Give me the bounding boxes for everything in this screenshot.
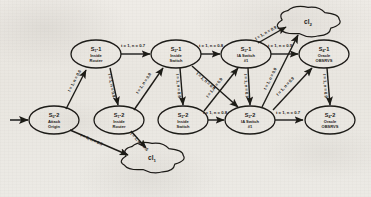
- node-name-line2: Origin: [48, 124, 60, 129]
- cloud-label-subscript: 1: [153, 158, 156, 163]
- node-name-line2: Router: [90, 58, 103, 63]
- edge-label: t = 1, n = 0.8: [203, 110, 228, 115]
- node-name-line2: Switch: [177, 124, 190, 129]
- edge-label: t = 1, n = 0.7: [276, 110, 301, 115]
- edge-label: t = 1, n = 0.9: [268, 43, 293, 48]
- node-state-number: -2: [183, 112, 188, 118]
- attack-graph-svg: t = 1, n = 0.6t = 1, n = 0.5t = 1, n = 0…: [0, 0, 371, 197]
- edge-label: t = 1, n = 0.8: [135, 71, 153, 94]
- attack-graph-canvas: t = 1, n = 0.6t = 1, n = 0.5t = 1, n = 0…: [0, 0, 371, 197]
- node-name-line2: Router: [113, 124, 126, 129]
- node-state-number: -2: [250, 112, 255, 118]
- node-state-number: -1: [324, 46, 329, 52]
- edge-label: t = 1, n = 0.6: [129, 131, 150, 152]
- node-state-number: -2: [119, 112, 124, 118]
- edge-label: t = 1, n = 0.8: [199, 43, 224, 48]
- edge-label: t = 1, n = 0.7: [121, 43, 146, 48]
- node-name-line2: Switch: [170, 58, 183, 63]
- node-name-line2: #1: [248, 124, 253, 129]
- cloud-label-subscript: 2: [309, 22, 312, 27]
- edge-label: t = 1, n = 0.9: [107, 73, 117, 98]
- cloud-label: cl1: [148, 154, 156, 163]
- node-state-number: -2: [54, 112, 59, 118]
- edge-label: t = 1, n = 0.5: [80, 132, 105, 147]
- edge-label: t = 1, n = 0.9: [322, 74, 329, 99]
- node-state-number: -1: [96, 46, 101, 52]
- node-name-line2: OBSRVS: [316, 58, 333, 63]
- edge-label: t = 1, n = 0.9: [275, 75, 295, 96]
- edge-label: t = 1, n = 0.7: [243, 74, 250, 99]
- edge-label: t = 1, n = 0.6: [175, 74, 182, 99]
- node-state-number: -1: [246, 46, 251, 52]
- cloud-label: cl2: [304, 18, 312, 27]
- node-name-line2: OBSRVS: [322, 124, 339, 129]
- node-name-line2: #1: [244, 58, 249, 63]
- node-state-number: -1: [176, 46, 181, 52]
- node-state-number: -2: [330, 112, 335, 118]
